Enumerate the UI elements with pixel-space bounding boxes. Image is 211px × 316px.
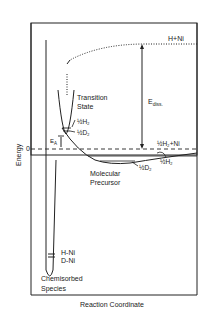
ts-d2-label: ½D₂ [77, 129, 90, 136]
ts-h2-leader [72, 120, 75, 127]
h-ni-asymptote [70, 44, 197, 60]
zero-label: 0 [26, 145, 30, 152]
plot-frame-top [31, 23, 197, 155]
h2-ni-label: ½H₂+Ni [157, 140, 180, 147]
e-a-label: EA [50, 138, 57, 146]
arrow-head [67, 60, 70, 64]
h-ni-label: H+Ni [168, 35, 184, 42]
precursor-d2-label: ½D₂ [139, 164, 152, 171]
transition-state-line2: State [77, 103, 93, 110]
transition-state-well [58, 90, 74, 134]
chemisorbed-well [46, 40, 56, 276]
chemisorbed-line1: Chemisorbed [41, 275, 83, 282]
energy-diagram: H+Ni Ediss. ½H₂+Ni Transition State ½H₂ … [0, 0, 211, 316]
e-diss-arrow-top [140, 44, 144, 49]
e-diss-arrow-bottom [140, 144, 144, 149]
chemisorbed-line2: Species [41, 285, 66, 293]
transition-state-line1: Transition [77, 94, 108, 101]
x-axis-label: Reaction Coordinate [80, 301, 144, 308]
y-axis-label: Energy [15, 143, 23, 166]
h-ni-state-label: H-Ni [61, 249, 75, 256]
ts-h2-label: ½H₂ [77, 118, 90, 125]
precursor-h2-label: ½H₂ [160, 158, 173, 165]
ts-d2-leader [70, 131, 75, 132]
d-ni-state-label: D-Ni [61, 257, 75, 264]
molecular-precursor-line1: Molecular [90, 170, 121, 177]
molecular-precursor-line2: Precursor [90, 179, 121, 186]
e-diss-label: Ediss. [148, 98, 163, 107]
